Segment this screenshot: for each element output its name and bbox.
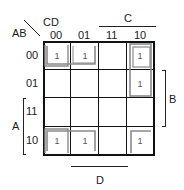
row-header-01: 01 <box>26 78 38 89</box>
bracket-b-label: B <box>169 94 176 105</box>
bracket-d-label: D <box>96 175 104 186</box>
group-loops <box>43 41 155 156</box>
col-header-11: 11 <box>106 30 117 41</box>
corner-diagonal-divider <box>22 18 44 38</box>
col-header-10: 10 <box>134 30 146 41</box>
col-header-00: 00 <box>50 30 62 41</box>
row-header-10: 10 <box>26 135 38 146</box>
col-variable-label: CD <box>43 17 59 28</box>
bracket-c-label: C <box>124 13 132 24</box>
row-header-11: 11 <box>26 106 37 117</box>
row-header-00: 00 <box>26 50 38 61</box>
bracket-a-label: A <box>12 121 19 132</box>
col-header-01: 01 <box>78 30 90 41</box>
